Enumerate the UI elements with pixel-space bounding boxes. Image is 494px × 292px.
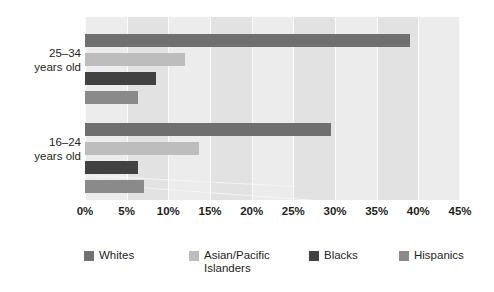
bar-chart: 25–34years old16–24years old 0%5%10%15%2… [0, 0, 494, 292]
category-label-line2: years old [3, 61, 81, 75]
x-tick-label: 25% [270, 205, 316, 217]
legend-item[interactable]: Whites [84, 249, 134, 262]
legend-item-label: Hispanics [414, 249, 464, 262]
x-tick-label: 10% [145, 205, 191, 217]
x-tick-label: 20% [229, 205, 275, 217]
legend-swatch-icon [399, 251, 409, 261]
background-band [418, 17, 460, 200]
x-tick-label: 45% [437, 205, 483, 217]
legend-item-label: Asian/Pacific Islanders [204, 249, 270, 275]
bar-asian [85, 142, 199, 155]
legend-swatch-icon [84, 251, 94, 261]
legend-item[interactable]: Hispanics [399, 249, 464, 262]
x-tick-label: 40% [395, 205, 441, 217]
category-label-line2: years old [3, 150, 81, 164]
plot-area [85, 17, 460, 200]
legend-item-label: Whites [99, 249, 134, 262]
category-label: 25–34years old [3, 47, 81, 74]
bar-asian [85, 53, 185, 66]
x-tick-label: 0% [62, 205, 108, 217]
x-tick-label: 5% [104, 205, 150, 217]
chart-legend: WhitesAsian/Pacific IslandersBlacksHispa… [84, 249, 474, 289]
legend-item[interactable]: Asian/Pacific Islanders [189, 249, 270, 275]
legend-swatch-icon [309, 251, 319, 261]
bar-whites [85, 34, 410, 47]
legend-item-label: Blacks [324, 249, 358, 262]
bar-blacks [85, 72, 156, 85]
x-tick-label: 15% [187, 205, 233, 217]
category-label-line1: 16–24 [3, 136, 81, 150]
x-axis-tick-labels: 0%5%10%15%20%25%30%35%40%45% [85, 205, 460, 221]
gridline [459, 17, 460, 200]
x-tick-label: 30% [312, 205, 358, 217]
bar-hispanics [85, 91, 138, 104]
category-label: 16–24years old [3, 136, 81, 163]
bar-hispanics [85, 180, 144, 193]
legend-swatch-icon [189, 251, 199, 261]
bar-blacks [85, 161, 138, 174]
bar-whites [85, 123, 331, 136]
x-tick-label: 35% [354, 205, 400, 217]
legend-item[interactable]: Blacks [309, 249, 358, 262]
category-label-line1: 25–34 [3, 47, 81, 61]
gridline [418, 17, 419, 200]
